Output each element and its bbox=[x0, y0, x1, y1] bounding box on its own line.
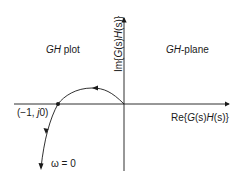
plane-text: -plane bbox=[181, 44, 209, 55]
s-close-text: (s)} bbox=[113, 16, 124, 31]
curve-end-arrow-icon bbox=[39, 163, 44, 170]
g-italic: G bbox=[113, 50, 124, 58]
s-text: (s) bbox=[113, 38, 124, 50]
plot-text: plot bbox=[61, 44, 80, 55]
critical-point-dot bbox=[56, 102, 60, 106]
omega-zero-label: ω = 0 bbox=[51, 158, 76, 170]
x-axis-label: Re{G(s)H(s)} bbox=[171, 112, 229, 124]
gh-locus-curve bbox=[41, 88, 124, 168]
gh-italic: GH bbox=[166, 44, 181, 55]
im-prefix: Im{ bbox=[113, 58, 124, 72]
h-italic: H bbox=[207, 112, 214, 123]
cp-post: 0) bbox=[40, 107, 49, 118]
region-label-gh-plot: GH plot bbox=[46, 44, 80, 56]
omega-text: ω = 0 bbox=[51, 158, 76, 169]
region-label-gh-plane: GH-plane bbox=[166, 44, 209, 56]
direction-arrow-upper-icon bbox=[92, 86, 98, 91]
y-axis-label: Im{G(s)H(s)} bbox=[113, 16, 124, 72]
s-text: (s) bbox=[195, 112, 207, 123]
re-prefix: Re{ bbox=[171, 112, 187, 123]
gh-italic: GH bbox=[46, 44, 61, 55]
h-italic: H bbox=[113, 31, 124, 38]
critical-point-label: (−1, j0) bbox=[17, 107, 48, 119]
s-close-text: (s)} bbox=[214, 112, 229, 123]
g-italic: G bbox=[187, 112, 195, 123]
cp-pre: (−1, bbox=[17, 107, 37, 118]
